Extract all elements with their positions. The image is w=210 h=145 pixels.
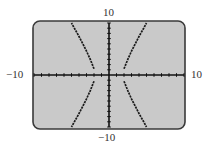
y-max-label: 10 [103,7,114,18]
graph-plot [32,20,186,130]
x-max-label: 10 [191,69,202,80]
calculator-screen [32,20,186,130]
y-min-label: −10 [98,132,115,143]
x-min-label: −10 [6,69,23,80]
